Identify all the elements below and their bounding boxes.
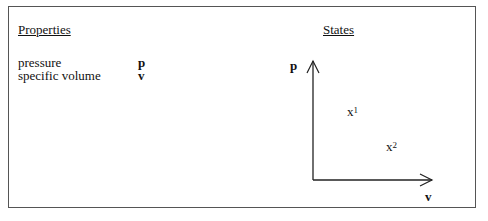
state-point-1: x1 xyxy=(347,105,358,119)
y-axis-label-p: p xyxy=(290,59,297,73)
pv-axes xyxy=(0,0,488,221)
x-axis-label-v: v xyxy=(425,190,432,204)
state-point-2: x2 xyxy=(386,140,397,154)
